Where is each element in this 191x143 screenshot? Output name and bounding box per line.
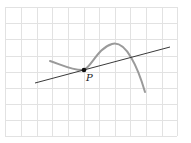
point-label: P bbox=[85, 72, 93, 83]
diagram-canvas: P bbox=[0, 0, 191, 143]
tangent-line bbox=[35, 47, 170, 83]
